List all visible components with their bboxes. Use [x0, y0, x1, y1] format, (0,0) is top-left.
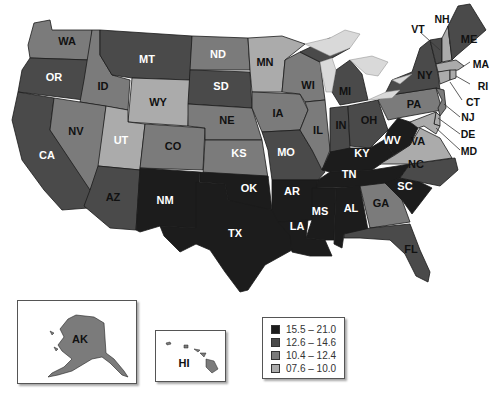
state-HI: HI: [156, 331, 225, 381]
legend-label: 15.5 – 21.0: [286, 324, 336, 335]
label-VT: VT: [411, 23, 424, 35]
legend-item: 07.6 – 10.0: [271, 362, 336, 374]
label-NJ: NJ: [461, 111, 474, 123]
legend: 15.5 – 21.0 12.6 – 14.6 10.4 – 12.4 07.6…: [262, 317, 345, 379]
state-KS: [203, 140, 268, 178]
state-MT: [100, 30, 192, 80]
state-ND: [190, 36, 250, 70]
label-RI: RI: [478, 80, 489, 92]
label-HI: HI: [179, 357, 190, 369]
legend-label: 12.6 – 14.6: [286, 337, 336, 348]
legend-item: 10.4 – 12.4: [271, 349, 336, 361]
label-MA: MA: [473, 58, 489, 70]
state-CT: [438, 70, 450, 84]
legend-swatch: [271, 325, 280, 334]
label-DE: DE: [461, 128, 476, 140]
state-WA: [28, 20, 92, 60]
state-NY: [384, 40, 440, 96]
state-WY: [128, 78, 190, 126]
label-MD: MD: [461, 145, 477, 157]
state-FL: [344, 224, 430, 282]
state-ME: [448, 4, 486, 60]
state-RI: [450, 70, 456, 80]
legend-label: 10.4 – 12.4: [286, 350, 336, 361]
legend-item: 15.5 – 21.0: [271, 323, 336, 335]
legend-label: 07.6 – 10.0: [286, 363, 336, 374]
state-IN: [330, 106, 350, 152]
legend-swatch: [271, 338, 280, 347]
state-NM: [136, 168, 200, 232]
legend-swatch: [271, 364, 280, 373]
state-SD: [188, 70, 252, 108]
state-AK: AK: [18, 301, 136, 383]
legend-item: 12.6 – 14.6: [271, 336, 336, 348]
state-CO: [140, 124, 205, 170]
hawaii-inset: HI: [155, 330, 226, 382]
state-AR: [272, 180, 318, 222]
label-AK: AK: [72, 333, 88, 345]
state-IA: [252, 92, 308, 132]
label-NH: NH: [434, 13, 449, 25]
alaska-inset: AK: [17, 300, 137, 384]
label-CT: CT: [466, 96, 480, 108]
legend-swatch: [271, 351, 280, 360]
